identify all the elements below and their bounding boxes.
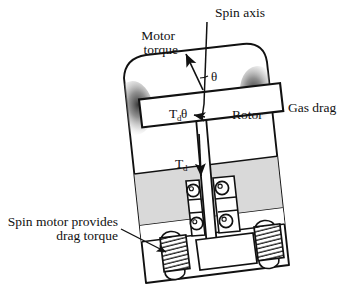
motor-coil-right [254,219,284,269]
gas-drag-label: Gas drag [288,100,337,115]
spin-axis-diagram: Spin axis Motor torque θ T d θ Rotor Gas… [0,0,348,295]
motor-torque-label-line1: Motor [141,28,175,43]
spin-axis-label: Spin axis [215,5,265,20]
theta-angle-label: θ [211,69,217,84]
figure-container: Spin axis Motor torque θ T d θ Rotor Gas… [0,0,348,295]
motor-torque-label-line2: torque [144,42,179,57]
drag-torque-subscript: d [183,163,188,173]
rotor-torque-theta: θ [181,106,187,121]
spin-motor-label-line1: Spin motor provides [8,214,118,229]
motor-coil-left [160,230,190,280]
rotor-label: Rotor [232,107,263,122]
spin-motor-label-line2: drag torque [56,228,118,243]
